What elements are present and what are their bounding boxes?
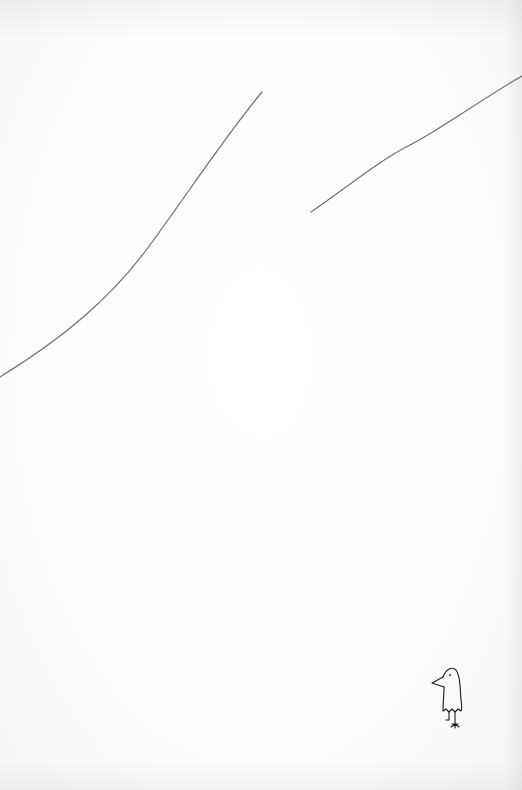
left-hill-line [0, 92, 262, 377]
book-page [0, 0, 522, 790]
bird-eye [449, 674, 451, 676]
bird-leg-left [446, 712, 449, 720]
illustration [0, 0, 522, 790]
right-hill-line [311, 76, 522, 212]
bird-drawing [432, 668, 462, 728]
bird-body [443, 668, 462, 712]
bird-beak [432, 677, 444, 687]
bird-foot [451, 724, 459, 728]
